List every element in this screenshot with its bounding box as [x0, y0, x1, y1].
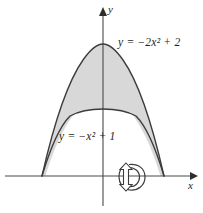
math-figure: y = −2x² + 2 y = −x² + 1 y x [0, 0, 203, 213]
x-axis-label: x [188, 179, 193, 191]
equation-label-outer: y = −2x² + 2 [118, 36, 180, 48]
y-axis-label: y [108, 3, 113, 15]
y-axis-arrowhead [99, 7, 107, 16]
figure-canvas [0, 0, 203, 213]
equation-label-inner: y = −x² + 1 [59, 130, 115, 142]
revolution-arrow [119, 163, 145, 191]
